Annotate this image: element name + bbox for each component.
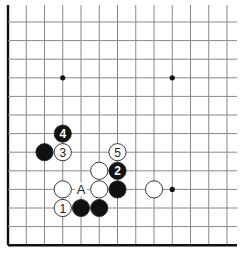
move-number: 2 bbox=[114, 164, 121, 178]
white-stone-1: 1 bbox=[54, 199, 71, 216]
black-stone-4: 4 bbox=[54, 125, 71, 142]
board-grid bbox=[8, 5, 237, 245]
black-stone bbox=[91, 199, 108, 216]
stone-disc bbox=[109, 181, 126, 198]
move-number: 1 bbox=[59, 202, 66, 216]
white-stone bbox=[54, 181, 71, 198]
board-marks: A bbox=[75, 182, 87, 197]
black-stone-2: 2 bbox=[109, 162, 126, 179]
star-point-icon bbox=[170, 187, 175, 192]
white-stone-5: 5 bbox=[109, 144, 126, 161]
move-number: 5 bbox=[114, 146, 121, 160]
white-stone bbox=[91, 181, 108, 198]
stone-disc bbox=[145, 181, 162, 198]
black-stone bbox=[36, 144, 53, 161]
star-point-icon bbox=[60, 75, 65, 80]
stone-disc bbox=[36, 144, 53, 161]
black-stone bbox=[109, 181, 126, 198]
stone-disc bbox=[91, 162, 108, 179]
point-label-a: A bbox=[77, 182, 86, 197]
move-number: 4 bbox=[59, 127, 66, 141]
white-stone-3: 3 bbox=[54, 144, 71, 161]
white-stone bbox=[91, 162, 108, 179]
go-board: A 43521 bbox=[0, 0, 246, 253]
white-stone bbox=[145, 181, 162, 198]
stone-disc bbox=[91, 181, 108, 198]
move-number: 3 bbox=[59, 146, 66, 160]
stone-disc bbox=[91, 199, 108, 216]
star-point-icon bbox=[170, 75, 175, 80]
stone-disc bbox=[72, 199, 89, 216]
stone-disc bbox=[54, 181, 71, 198]
black-stone bbox=[72, 199, 89, 216]
